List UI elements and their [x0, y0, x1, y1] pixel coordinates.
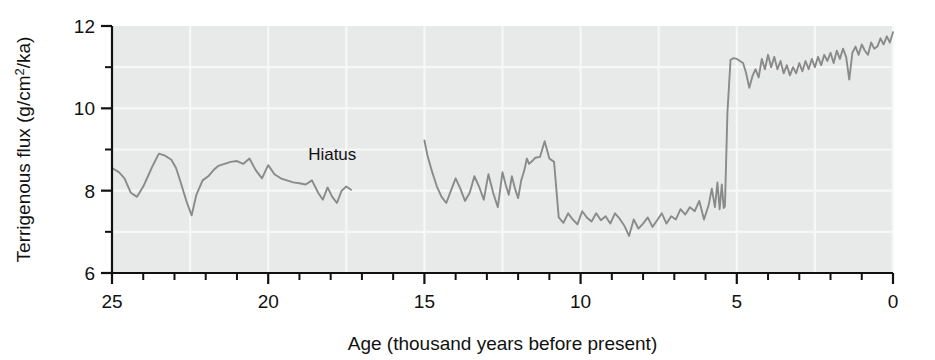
chart-annotations: Hiatus	[308, 145, 356, 164]
x-tick-label: 20	[258, 291, 279, 312]
x-tick-label: 10	[570, 291, 591, 312]
x-tick-label: 5	[732, 291, 743, 312]
y-axis-title: Terrigenous flux (g/cm2/ka)	[12, 37, 34, 263]
y-tick-label: 6	[84, 263, 95, 284]
y-tick-label: 10	[74, 98, 95, 119]
x-tick-label: 0	[888, 291, 899, 312]
y-tick-label: 8	[84, 181, 95, 202]
chart-canvas: 6810122520151050 Hiatus Age (thousand ye…	[0, 0, 935, 360]
x-axis-title: Age (thousand years before present)	[348, 333, 657, 354]
x-tick-label: 25	[101, 291, 122, 312]
terrigenous-flux-figure: 6810122520151050 Hiatus Age (thousand ye…	[0, 0, 935, 360]
y-tick-label: 12	[74, 16, 95, 37]
annotation-hiatus: Hiatus	[308, 145, 356, 164]
x-tick-label: 15	[414, 291, 435, 312]
